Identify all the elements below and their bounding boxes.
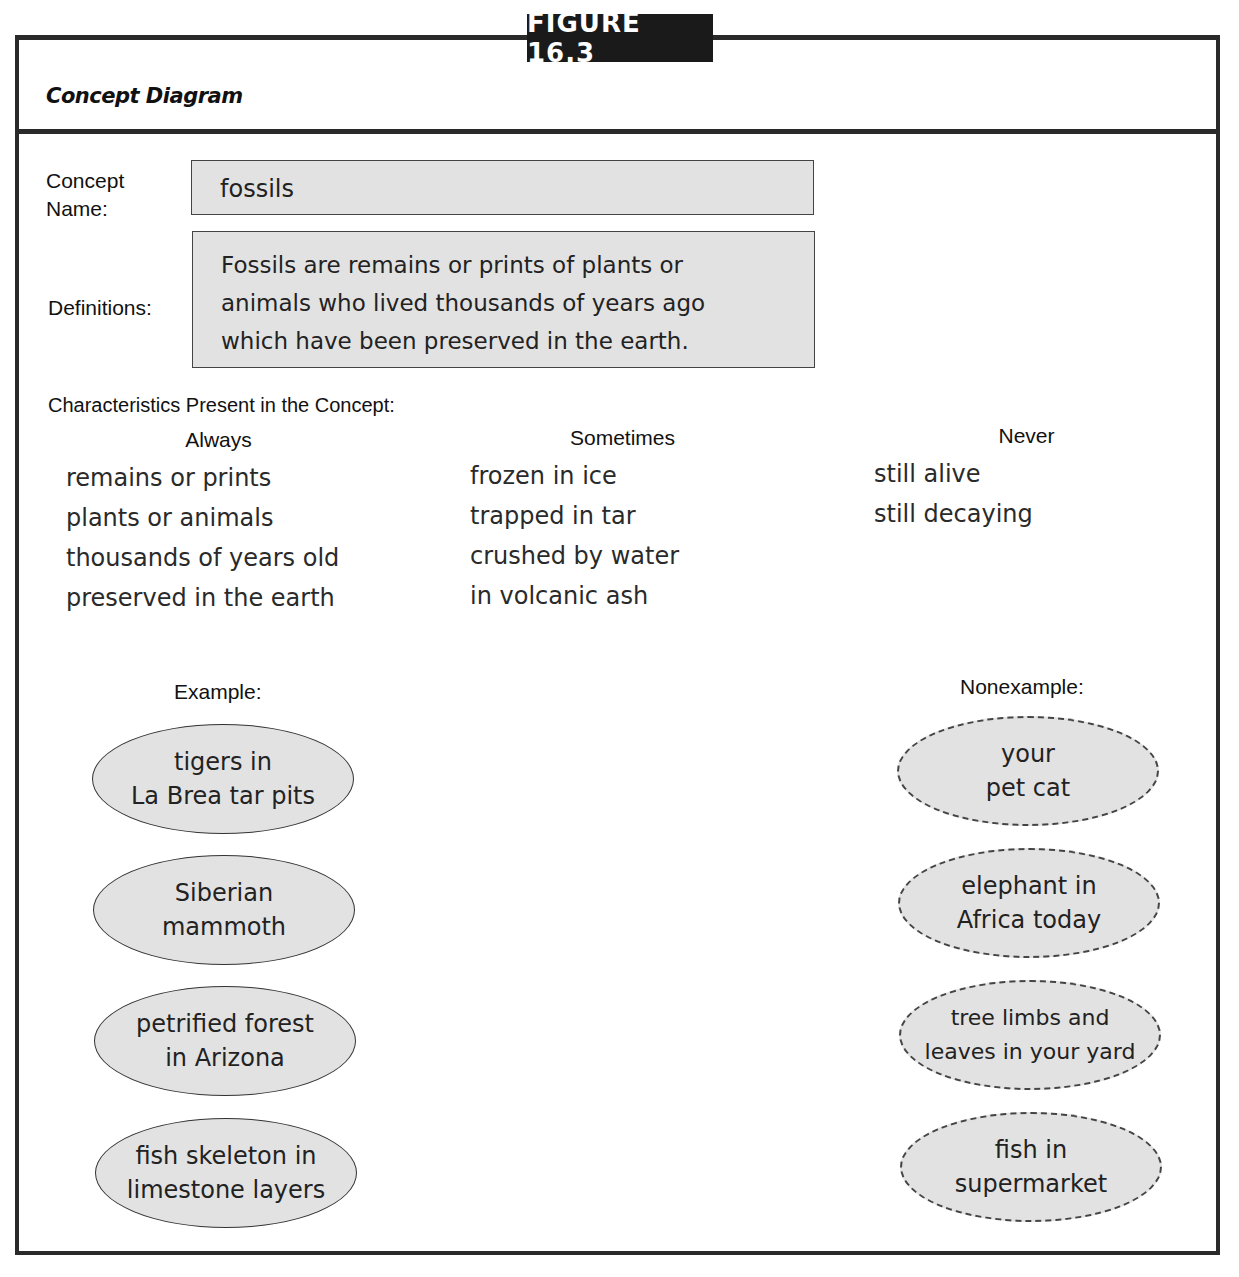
example-text: tigers in — [174, 745, 272, 779]
characteristics-title: Characteristics Present in the Concept: — [48, 394, 395, 417]
characteristic-item: still alive — [854, 454, 1214, 494]
column-never: Never still alive still decaying — [854, 424, 1214, 534]
example-text: fish skeleton in — [135, 1139, 316, 1173]
characteristic-item: in volcanic ash — [450, 576, 810, 616]
definition-line: animals who lived thousands of years ago — [221, 284, 814, 322]
nonexample-text: Africa today — [957, 903, 1101, 937]
nonexample-text: pet cat — [986, 771, 1070, 805]
example-ellipse: tigers in La Brea tar pits — [92, 724, 354, 834]
nonexample-text: supermarket — [955, 1167, 1107, 1201]
nonexample-ellipse: elephant in Africa today — [898, 848, 1160, 958]
characteristic-item: still decaying — [854, 494, 1214, 534]
column-heading: Never — [854, 424, 1199, 454]
diagram-title: Concept Diagram — [46, 84, 243, 108]
nonexample-ellipse: fish in supermarket — [900, 1112, 1162, 1222]
nonexample-text: fish in — [995, 1133, 1067, 1167]
concept-name-label-line2: Name: — [46, 195, 124, 223]
characteristic-item: trapped in tar — [450, 496, 810, 536]
nonexample-ellipse: your pet cat — [897, 716, 1159, 826]
column-heading: Always — [46, 428, 391, 458]
concept-name-label-line1: Concept — [46, 167, 124, 195]
column-always: Always remains or prints plants or anima… — [46, 428, 406, 618]
definition-label: Definitions: — [48, 294, 152, 322]
example-text: petrified forest — [136, 1007, 314, 1041]
figure-tag: FIGURE 16.3 — [527, 14, 713, 62]
nonexample-text: your — [1001, 737, 1055, 771]
nonexample-label: Nonexample: — [960, 675, 1084, 699]
concept-name-label: Concept Name: — [46, 167, 124, 223]
definition-line: which have been preserved in the earth. — [221, 322, 814, 360]
definition-line: Fossils are remains or prints of plants … — [221, 246, 814, 284]
example-ellipse: petrified forest in Arizona — [94, 986, 356, 1096]
characteristic-item: frozen in ice — [450, 456, 810, 496]
nonexample-text: tree limbs and — [951, 1001, 1110, 1035]
header-divider — [15, 129, 1220, 134]
example-text: La Brea tar pits — [131, 779, 315, 813]
example-text: Siberian — [175, 876, 273, 910]
concept-name-value: fossils — [220, 175, 294, 203]
nonexample-ellipse: tree limbs and leaves in your yard — [899, 980, 1161, 1090]
example-text: in Arizona — [165, 1041, 285, 1075]
characteristic-item: remains or prints — [46, 458, 406, 498]
nonexample-text: elephant in — [961, 869, 1096, 903]
nonexample-text: leaves in your yard — [925, 1035, 1136, 1069]
definition-box: Fossils are remains or prints of plants … — [192, 231, 815, 368]
example-text: mammoth — [162, 910, 286, 944]
example-text: limestone layers — [127, 1173, 325, 1207]
characteristic-item: preserved in the earth — [46, 578, 406, 618]
example-label: Example: — [174, 680, 262, 704]
characteristic-item: thousands of years old — [46, 538, 406, 578]
example-ellipse: Siberian mammoth — [93, 855, 355, 965]
column-sometimes: Sometimes frozen in ice trapped in tar c… — [450, 426, 810, 616]
characteristic-item: crushed by water — [450, 536, 810, 576]
example-ellipse: fish skeleton in limestone layers — [95, 1118, 357, 1228]
characteristic-item: plants or animals — [46, 498, 406, 538]
column-heading: Sometimes — [450, 426, 795, 456]
concept-name-box: fossils — [191, 160, 814, 215]
